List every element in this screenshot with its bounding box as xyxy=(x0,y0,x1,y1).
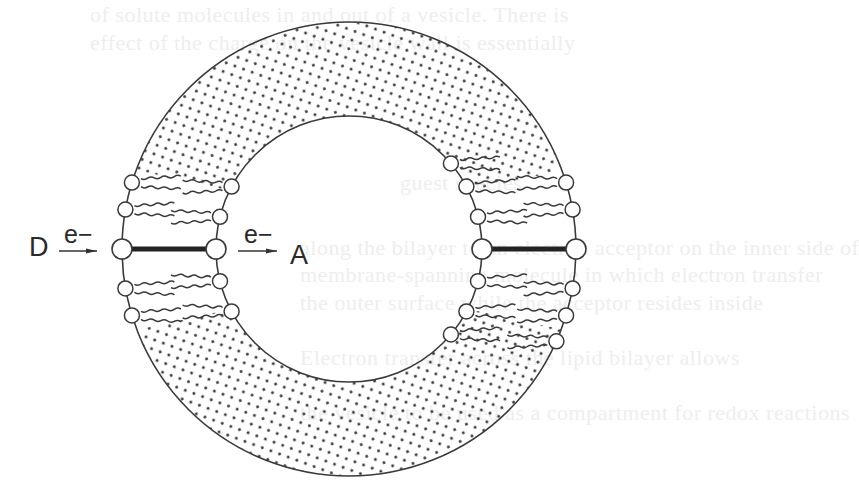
lipid-head-group xyxy=(459,179,474,194)
lipid-head-group xyxy=(124,175,139,190)
lipid-head-group xyxy=(459,304,474,319)
lipid-head-group xyxy=(443,327,458,342)
lipid-head-group xyxy=(118,202,133,217)
inner-head-group xyxy=(472,239,492,259)
lipid-head-group xyxy=(213,209,228,224)
lipid-head-group xyxy=(549,334,564,349)
outer-head-group xyxy=(112,239,132,259)
arrow-acceptor xyxy=(238,249,277,254)
lipid-head-group xyxy=(565,202,580,217)
lipid-head-group xyxy=(124,308,139,323)
lipid-head-group xyxy=(471,274,486,289)
inner-membrane-surface xyxy=(216,116,482,382)
outer-head-group xyxy=(566,239,586,259)
donor-label: D xyxy=(29,232,49,263)
lipid-head-group xyxy=(213,274,228,289)
electron-label-outer: e− xyxy=(64,220,93,249)
lipid-head-group xyxy=(565,281,580,296)
lipid-head-group xyxy=(224,179,239,194)
lipid-head-group xyxy=(559,175,574,190)
lipid-head-group xyxy=(443,156,458,171)
electron-label-inner: e− xyxy=(244,220,273,249)
arrow-donor xyxy=(59,249,97,254)
lipid-head-group xyxy=(224,304,239,319)
inner-head-group xyxy=(206,239,226,259)
lipid-head-group xyxy=(118,281,133,296)
acceptor-label: A xyxy=(290,240,308,271)
lipid-head-group xyxy=(559,308,574,323)
lipid-head-group xyxy=(471,209,486,224)
